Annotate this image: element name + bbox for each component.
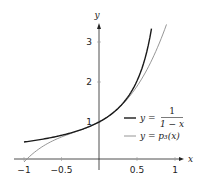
legend-prefix: y = bbox=[139, 113, 156, 123]
legend-item-reciprocal: y = 1 1 − x bbox=[124, 106, 184, 129]
y-axis-label: y bbox=[93, 10, 100, 20]
legend-label: y = p₃(x) bbox=[139, 131, 180, 141]
y-axis-arrow-icon bbox=[97, 23, 101, 29]
legend: y = 1 1 − x y = p₃(x) bbox=[124, 106, 184, 141]
legend-numerator: 1 bbox=[169, 106, 175, 116]
chart-canvas: −1 −0.5 0.5 1 x 1 2 3 y y = 1 1 − x y = … bbox=[0, 0, 201, 189]
y-tick-label: 3 bbox=[86, 37, 92, 47]
series-p3-curve bbox=[24, 24, 167, 162]
legend-denominator: 1 − x bbox=[160, 119, 184, 129]
x-tick-label: 0.5 bbox=[130, 165, 144, 175]
legend-item-p3: y = p₃(x) bbox=[124, 131, 180, 141]
x-axis-arrow-icon bbox=[179, 157, 184, 161]
x-axis: −1 −0.5 0.5 1 x bbox=[14, 154, 193, 175]
y-tick-label: 2 bbox=[86, 77, 92, 87]
x-tick-label: −1 bbox=[17, 165, 30, 175]
y-axis: 1 2 3 y bbox=[86, 10, 101, 170]
x-axis-label: x bbox=[188, 154, 193, 164]
x-tick-label: −0.5 bbox=[51, 165, 73, 175]
x-tick-label: 1 bbox=[172, 165, 178, 175]
